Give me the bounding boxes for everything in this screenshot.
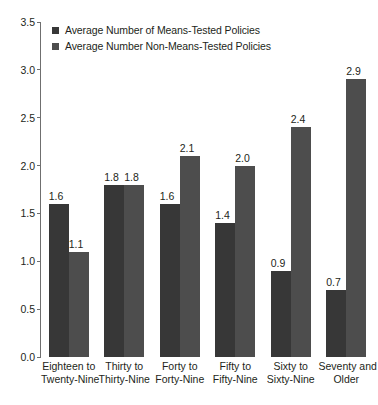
bar[interactable] — [271, 271, 291, 357]
x-axis-label-line: Fifty to — [208, 360, 264, 373]
legend-swatch-icon — [52, 43, 59, 50]
x-axis-category-label: Fifty toFifty-Nine — [208, 360, 264, 386]
bar-column[interactable]: 1.6 — [160, 22, 180, 357]
bar[interactable] — [69, 252, 89, 357]
x-axis-label-line: Sixty-Nine — [263, 373, 319, 386]
bar-column[interactable]: 2.0 — [235, 22, 255, 357]
chart-legend: Average Number of Means-Tested PoliciesA… — [52, 23, 271, 55]
bar-column[interactable]: 2.1 — [180, 22, 200, 357]
bar-value-label: 2.1 — [180, 143, 195, 154]
bar-value-label: 1.6 — [160, 191, 175, 202]
bar[interactable] — [180, 156, 200, 357]
bar[interactable] — [326, 290, 346, 357]
bar-group: 1.61.1 — [49, 22, 89, 357]
x-axis-labels: Eighteen toTwenty-NineThirty toThirty-Ni… — [41, 360, 374, 402]
bar-group: 0.72.9 — [326, 22, 366, 357]
x-axis-category-label: Thirty toThirty-Nine — [97, 360, 153, 386]
bar-value-label: 1.4 — [215, 210, 230, 221]
bar-column[interactable]: 0.9 — [271, 22, 291, 357]
bar-column[interactable]: 0.7 — [326, 22, 346, 357]
bar-value-label: 1.8 — [124, 172, 139, 183]
bar[interactable] — [49, 204, 69, 357]
x-axis-label-line: Thirty to — [97, 360, 153, 373]
bar-value-label: 0.9 — [271, 258, 286, 269]
y-axis-tick-label: 2.5 — [20, 112, 37, 122]
bar-column[interactable]: 2.4 — [291, 22, 311, 357]
bar-value-label: 0.7 — [326, 277, 341, 288]
legend-item[interactable]: Average Number Non-Means-Tested Policies — [52, 39, 271, 53]
legend-swatch-icon — [52, 27, 59, 34]
bar[interactable] — [215, 223, 235, 357]
y-axis-tick-label: 2.0 — [20, 160, 37, 170]
bar-value-label: 2.4 — [291, 114, 306, 125]
x-axis-category-label: Seventy andOlder — [319, 360, 375, 386]
bar-value-label: 1.1 — [69, 239, 84, 250]
x-axis-label-line: Thirty-Nine — [97, 373, 153, 386]
x-axis-label-line: Twenty-Nine — [41, 373, 97, 386]
bar-value-label: 1.6 — [49, 191, 64, 202]
legend-item[interactable]: Average Number of Means-Tested Policies — [52, 23, 271, 37]
x-axis-label-line: Forty-Nine — [152, 373, 208, 386]
bar[interactable] — [346, 79, 366, 357]
bar[interactable] — [160, 204, 180, 357]
x-axis-label-line: Sixty to — [263, 360, 319, 373]
bar-chart: Average Number of Means-Tested PoliciesA… — [0, 0, 378, 405]
bar-group: 0.92.4 — [271, 22, 311, 357]
bar[interactable] — [124, 185, 144, 357]
bar-value-label: 2.9 — [346, 66, 361, 77]
bar-column[interactable]: 1.6 — [49, 22, 69, 357]
x-axis-label-line: Seventy and — [319, 360, 375, 373]
bar-group: 1.81.8 — [104, 22, 144, 357]
bar[interactable] — [235, 166, 255, 357]
bar-group: 1.42.0 — [215, 22, 255, 357]
x-axis-category-label: Sixty toSixty-Nine — [263, 360, 319, 386]
bar-group: 1.62.1 — [160, 22, 200, 357]
legend-label: Average Number of Means-Tested Policies — [65, 24, 260, 36]
legend-label: Average Number Non-Means-Tested Policies — [65, 40, 271, 52]
x-axis-label-line: Older — [319, 373, 375, 386]
y-axis-tick-label: 1.0 — [20, 256, 37, 266]
x-axis-label-line: Fifty-Nine — [208, 373, 264, 386]
y-axis-tick-label: 3.5 — [20, 17, 37, 27]
x-axis-label-line: Forty to — [152, 360, 208, 373]
y-axis-tick-label: 3.0 — [20, 64, 37, 74]
bar-column[interactable]: 2.9 — [346, 22, 366, 357]
bar-column[interactable]: 1.8 — [104, 22, 124, 357]
y-axis-tick-label: 0.5 — [20, 304, 37, 314]
bar-column[interactable]: 1.4 — [215, 22, 235, 357]
y-axis-tick-label: 0.0 — [20, 352, 37, 362]
bar-column[interactable]: 1.8 — [124, 22, 144, 357]
y-axis-tick-label: 1.5 — [20, 208, 37, 218]
bar[interactable] — [104, 185, 124, 357]
x-axis-label-line: Eighteen to — [41, 360, 97, 373]
bar-value-label: 2.0 — [235, 153, 250, 164]
x-axis-category-label: Eighteen toTwenty-Nine — [41, 360, 97, 386]
plot-area: 1.61.11.81.81.62.11.42.00.92.40.72.9 — [41, 22, 374, 357]
bar-value-label: 1.8 — [104, 172, 119, 183]
x-axis-category-label: Forty toForty-Nine — [152, 360, 208, 386]
bar-column[interactable]: 1.1 — [69, 22, 89, 357]
bar[interactable] — [291, 127, 311, 357]
